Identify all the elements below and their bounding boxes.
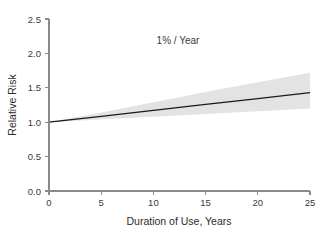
x-tick-label: 5 xyxy=(99,197,104,208)
x-tick-label: 25 xyxy=(305,197,316,208)
y-tick-label: 2.0 xyxy=(28,48,41,59)
y-tick-label: 0.0 xyxy=(28,186,41,197)
x-tick-label: 0 xyxy=(46,197,51,208)
y-tick-label: 2.5 xyxy=(28,14,41,25)
y-axis-title: Relative Risk xyxy=(6,74,18,136)
relative-risk-line-chart: 0.00.51.01.52.02.5 0510152025 Relative R… xyxy=(0,0,329,233)
y-tick-label: 1.0 xyxy=(28,117,41,128)
x-tick-label: 10 xyxy=(148,197,159,208)
x-tick-label: 15 xyxy=(200,197,211,208)
y-tick-label: 0.5 xyxy=(28,151,41,162)
y-axis-ticks: 0.00.51.01.52.02.5 xyxy=(28,14,49,197)
x-axis-title: Duration of Use, Years xyxy=(126,215,231,227)
rate-annotation-label: 1% / Year xyxy=(157,35,200,46)
x-axis-ticks: 0510152025 xyxy=(46,191,315,208)
x-tick-label: 20 xyxy=(253,197,264,208)
y-tick-label: 1.5 xyxy=(28,82,41,93)
chart-figure: 0.00.51.01.52.02.5 0510152025 Relative R… xyxy=(0,0,329,233)
